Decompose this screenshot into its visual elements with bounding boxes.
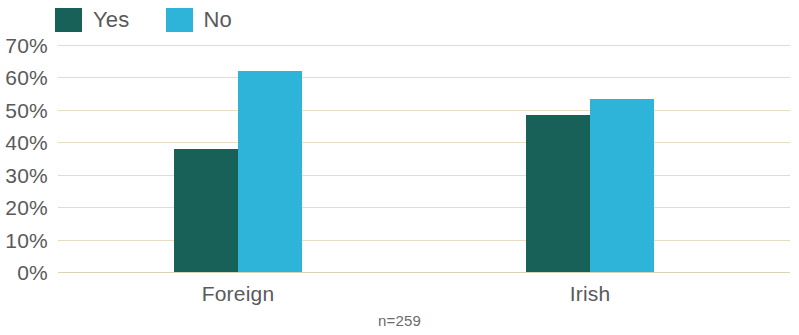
x-axis-label-irish: Irish	[570, 283, 611, 304]
gridline	[58, 240, 790, 241]
gridline	[58, 45, 790, 46]
legend-swatch-yes	[55, 8, 82, 32]
y-axis-tick-label: 20%	[5, 197, 48, 218]
legend-swatch-no	[166, 8, 193, 32]
legend-label-no: No	[204, 9, 233, 31]
bar-foreign-yes	[174, 149, 238, 272]
bar-foreign-no	[238, 71, 302, 272]
y-axis-tick-label: 50%	[5, 99, 48, 120]
gridline	[58, 110, 790, 111]
gridline	[58, 77, 790, 78]
bar-irish-yes	[526, 115, 590, 272]
legend-label-yes: Yes	[93, 9, 130, 31]
plot-area	[58, 45, 790, 272]
legend-item-yes: Yes	[55, 8, 130, 32]
y-axis-tick-label: 40%	[5, 132, 48, 153]
legend-item-no: No	[166, 8, 233, 32]
bar-irish-no	[590, 99, 654, 272]
y-axis-tick-label: 60%	[5, 67, 48, 88]
gridline	[58, 207, 790, 208]
gridline	[58, 272, 790, 273]
chart-legend: Yes No	[55, 6, 232, 34]
gridline	[58, 175, 790, 176]
sample-size-annotation: n=259	[0, 313, 799, 328]
y-axis-tick-label: 70%	[5, 35, 48, 56]
y-axis-tick-label: 0%	[17, 262, 48, 283]
y-axis-tick-label: 10%	[5, 229, 48, 250]
x-axis-label-foreign: Foreign	[202, 283, 275, 304]
y-axis: 70%60%50%40%30%20%10%0%	[0, 45, 48, 272]
y-axis-tick-label: 30%	[5, 164, 48, 185]
gridline	[58, 142, 790, 143]
